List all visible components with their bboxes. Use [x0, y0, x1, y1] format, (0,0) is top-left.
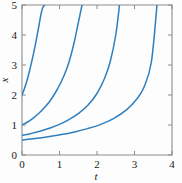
x-tick-label: 4: [169, 158, 175, 170]
y-tick-label: 1: [12, 119, 18, 131]
y-tick-label: 0: [12, 149, 18, 161]
x-tick-label: 2: [94, 158, 100, 170]
x-tick-label: 0: [19, 158, 25, 170]
y-tick-label: 2: [12, 89, 18, 101]
y-tick-label: 5: [12, 0, 18, 11]
plot-svg: 01234 012345 t x: [0, 0, 182, 183]
y-axis-title: x: [0, 77, 10, 83]
y-tick-label: 3: [12, 59, 18, 71]
chart-figure: 01234 012345 t x: [0, 0, 182, 183]
y-tick-label: 4: [12, 29, 18, 41]
x-tick-label: 1: [57, 158, 63, 170]
x-tick-label: 3: [132, 158, 138, 170]
